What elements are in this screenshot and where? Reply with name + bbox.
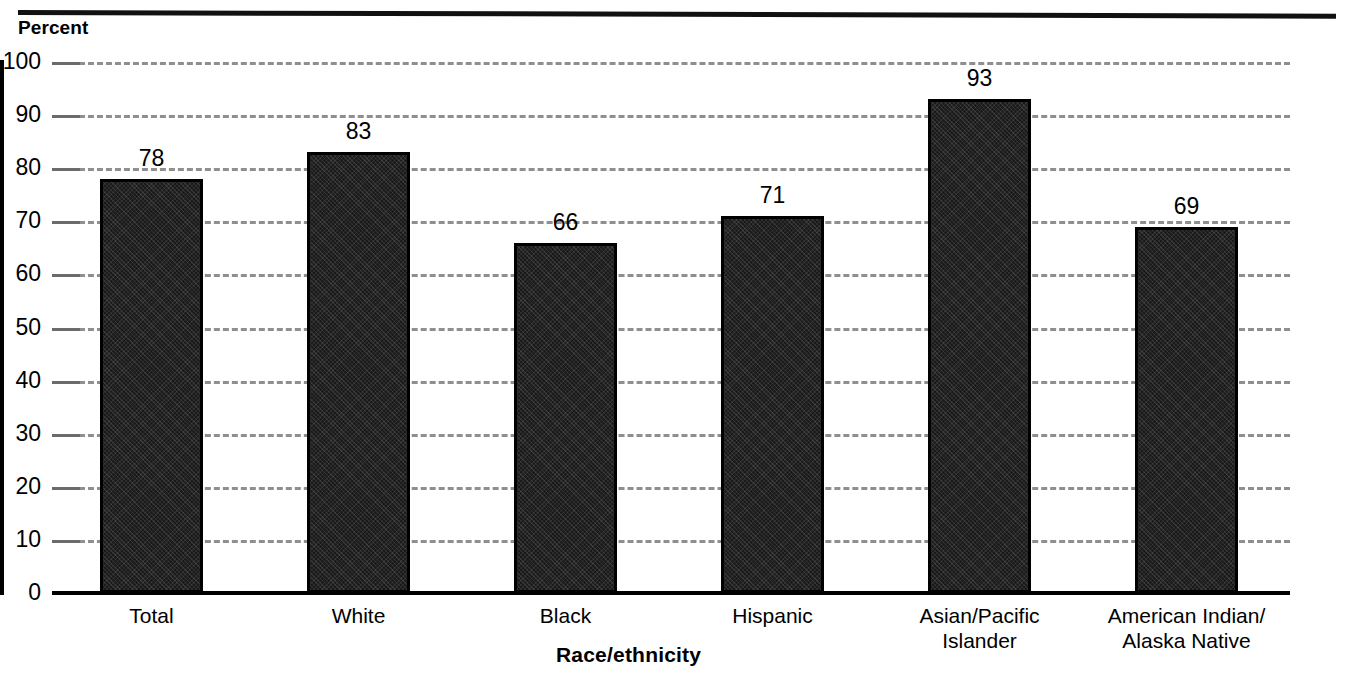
y-axis-tick	[52, 221, 80, 224]
bar-chart-figure: Percent 788366719369 0102030405060708090…	[0, 0, 1345, 677]
plot-area: 788366719369	[52, 62, 1290, 593]
x-axis-category-label: Total	[50, 604, 253, 629]
bar-value-label: 78	[100, 147, 203, 170]
gridline	[52, 221, 1290, 224]
x-axis-category-label: Black	[464, 604, 667, 629]
bar-value-label: 83	[307, 120, 410, 143]
gridline	[52, 62, 1290, 65]
bar	[514, 243, 617, 593]
bar-value-label: 93	[928, 67, 1031, 90]
bar	[928, 99, 1031, 593]
x-axis-title: Race/ethnicity	[0, 643, 1345, 667]
y-axis-tick	[52, 381, 80, 384]
bar	[307, 152, 410, 593]
y-axis-tick-label: 60	[0, 262, 41, 285]
bar	[1135, 227, 1238, 593]
y-axis-tick-label: 80	[0, 156, 41, 179]
gridline	[52, 487, 1290, 490]
gridline	[52, 381, 1290, 384]
gridline	[52, 434, 1290, 437]
y-axis-tick	[52, 434, 80, 437]
y-axis-tick	[52, 487, 80, 490]
y-axis-tick-label: 90	[0, 103, 41, 126]
y-axis-tick-label: 70	[0, 209, 41, 232]
y-axis-tick-label: 50	[0, 316, 41, 339]
bar	[100, 179, 203, 593]
gridline	[52, 168, 1290, 171]
gridline	[52, 274, 1290, 277]
y-axis-tick-label: 0	[0, 581, 41, 604]
y-axis-tick-label: 100	[0, 50, 41, 73]
gridline	[52, 328, 1290, 331]
x-axis-category-label: White	[257, 604, 460, 629]
y-axis-tick-label: 20	[0, 475, 41, 498]
bar-value-label: 69	[1135, 195, 1238, 218]
y-axis-tick-label: 10	[0, 528, 41, 551]
y-axis-tick	[52, 274, 80, 277]
header-rule	[18, 10, 1336, 19]
bar	[721, 216, 824, 593]
y-axis-unit-label: Percent	[18, 17, 88, 39]
y-axis-tick-label: 30	[0, 422, 41, 445]
y-axis-tick	[52, 328, 80, 331]
y-axis-tick-label: 40	[0, 369, 41, 392]
x-axis-category-label: Hispanic	[671, 604, 874, 629]
y-axis-tick	[52, 540, 80, 543]
bar-value-label: 71	[721, 184, 824, 207]
y-axis-tick	[52, 115, 80, 118]
bar-value-label: 66	[514, 211, 617, 234]
y-axis-tick	[52, 62, 80, 65]
gridline	[52, 115, 1290, 118]
gridline	[52, 540, 1290, 543]
y-axis-tick	[52, 168, 80, 171]
